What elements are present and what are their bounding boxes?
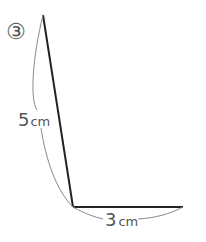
measure-arc-long-top	[33, 15, 43, 110]
label-long-side: 5cm	[18, 109, 50, 130]
measure-arc-long-bottom	[41, 128, 73, 207]
measure-arc-short-right	[138, 207, 183, 219]
figure-number: ③	[6, 19, 26, 44]
angle-diagram: ③ 5cm 3cm	[0, 0, 206, 242]
segment-long	[43, 15, 73, 207]
label-short-side: 3cm	[105, 209, 138, 230]
measure-arc-short-left	[73, 207, 103, 219]
